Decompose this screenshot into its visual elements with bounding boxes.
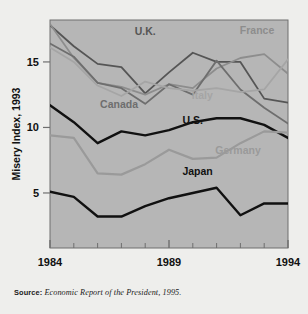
y-axis-ticks: [43, 62, 50, 193]
series-label-u-k: U.K.: [135, 25, 156, 37]
x-tick-label-1994: 1994: [276, 256, 301, 268]
series-label-france: France: [240, 24, 275, 36]
source-separator: :: [40, 288, 43, 297]
series-label-japan: Japan: [182, 165, 212, 177]
source-label: Source: [14, 288, 40, 297]
chart-figure: U.K.FranceCanadaItalyU.S.GermanyJapan 19…: [0, 0, 308, 314]
series-label-germany: Germany: [215, 144, 261, 156]
misery-index-line-chart: U.K.FranceCanadaItalyU.S.GermanyJapan 19…: [0, 0, 308, 314]
y-axis-tick-labels: 51015: [27, 56, 39, 199]
y-axis-title-group: Misery Index, 1993: [10, 87, 22, 180]
x-tick-label-1989: 1989: [157, 256, 181, 268]
x-axis-tick-labels: 198419891994: [38, 256, 301, 268]
series-label-canada: Canada: [100, 98, 138, 110]
y-tick-label-5: 5: [33, 187, 39, 199]
source-note: Source: Economic Report of the President…: [14, 288, 181, 297]
y-tick-label-15: 15: [27, 56, 39, 68]
y-tick-label-10: 10: [27, 121, 39, 133]
series-label-italy: Italy: [192, 89, 213, 101]
x-tick-label-1984: 1984: [38, 256, 63, 268]
y-axis-title: Misery Index, 1993: [10, 87, 22, 180]
source-text: Economic Report of the President, 1995.: [44, 288, 181, 297]
series-label-u-s: U.S.: [183, 114, 204, 126]
